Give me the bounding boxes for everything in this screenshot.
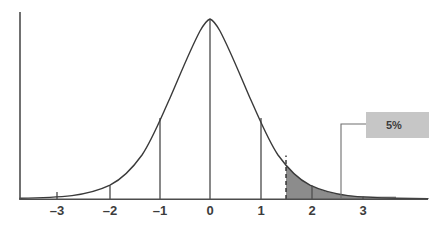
normal-distribution-chart: –3 –2 –1 0 1 2 3 5% <box>0 0 438 231</box>
chart-canvas <box>0 0 438 231</box>
shaded-tail-area <box>20 19 396 199</box>
x-tick-label-minus-1: –1 <box>145 204 175 218</box>
callout-percent-label: 5% <box>386 119 402 131</box>
x-tick-label-minus-2: –2 <box>95 204 125 218</box>
x-tick-label-minus-3: –3 <box>42 204 72 218</box>
normal-curve <box>20 19 428 199</box>
x-tick-label-plus-3: 3 <box>348 204 378 218</box>
x-tick-label-zero: 0 <box>195 204 225 218</box>
x-tick-label-plus-1: 1 <box>246 204 276 218</box>
callout-leader-line <box>341 124 366 199</box>
x-tick-label-plus-2: 2 <box>297 204 327 218</box>
